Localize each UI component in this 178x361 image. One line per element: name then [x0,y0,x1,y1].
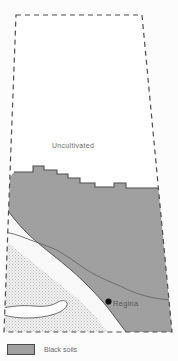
map-legend: Black soils [0,344,178,361]
soil-zone-map: Uncultivated Regina [0,0,178,361]
map-label-uncultivated: Uncultivated [52,142,94,149]
regina-marker [105,298,111,304]
legend-swatch-black-soils [7,344,35,355]
legend-item-black-soils: Black soils [7,344,77,355]
map-graphic [0,0,178,361]
map-label-regina: Regina [113,299,139,308]
legend-label-black-soils: Black soils [44,344,77,355]
